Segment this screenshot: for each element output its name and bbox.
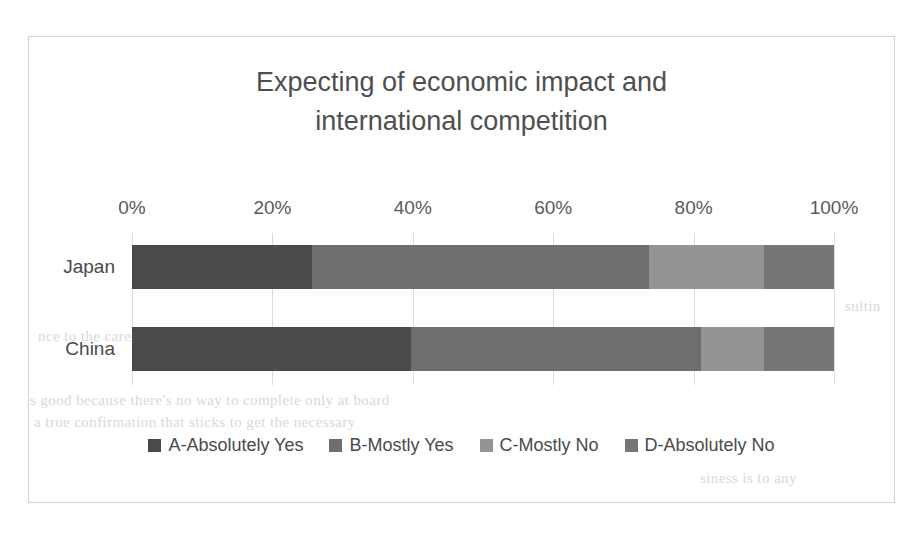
x-tick-label: 0% (118, 197, 145, 219)
legend-swatch (480, 439, 493, 452)
gridline (834, 233, 835, 385)
x-axis-tick-labels: 0%20%40%60%80%100% (132, 197, 834, 225)
legend-label: B-Mostly Yes (349, 435, 453, 456)
chart-title: Expecting of economic impact and interna… (29, 63, 894, 141)
legend-label: D-Absolutely No (645, 435, 775, 456)
plot-area (132, 233, 834, 385)
category-label: China (65, 338, 115, 360)
x-tick-label: 80% (675, 197, 713, 219)
legend-swatch (329, 439, 342, 452)
bar-segment[interactable] (764, 245, 834, 289)
legend-label: A-Absolutely Yes (168, 435, 303, 456)
legend-item[interactable]: C-Mostly No (480, 435, 599, 456)
bar-row[interactable] (132, 327, 834, 371)
bar-row[interactable] (132, 245, 834, 289)
bar-segment[interactable] (312, 245, 649, 289)
category-label: Japan (63, 256, 115, 278)
y-axis-category-labels: JapanChina (29, 233, 125, 385)
legend-swatch (148, 439, 161, 452)
x-tick-label: 20% (253, 197, 291, 219)
legend-item[interactable]: A-Absolutely Yes (148, 435, 303, 456)
bar-segment[interactable] (132, 245, 312, 289)
legend-label: C-Mostly No (500, 435, 599, 456)
x-tick-label: 100% (810, 197, 859, 219)
bar-segment[interactable] (132, 327, 411, 371)
legend-item[interactable]: D-Absolutely No (625, 435, 775, 456)
bar-segment[interactable] (764, 327, 834, 371)
chart-title-line-1: Expecting of economic impact and (29, 63, 894, 102)
bar-segment[interactable] (649, 245, 764, 289)
x-tick-label: 60% (534, 197, 572, 219)
legend-swatch (625, 439, 638, 452)
bar-segment[interactable] (701, 327, 764, 371)
chart-container: Expecting of economic impact and interna… (28, 36, 895, 503)
x-tick-label: 40% (394, 197, 432, 219)
legend-item[interactable]: B-Mostly Yes (329, 435, 453, 456)
bar-segment[interactable] (411, 327, 701, 371)
chart-legend: A-Absolutely YesB-Mostly YesC-Mostly NoD… (29, 435, 894, 456)
chart-title-line-2: international competition (29, 102, 894, 141)
